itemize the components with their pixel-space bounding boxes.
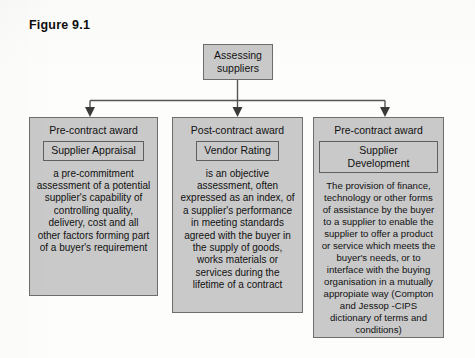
column-supplier-appraisal: Pre-contract award Supplier Appraisal a … [29, 117, 158, 296]
column-1-term-box: Supplier Appraisal [43, 141, 144, 161]
column-3-term-box: Supplier Development [319, 141, 438, 173]
column-2-term-box: Vendor Rating [196, 141, 279, 161]
arrowhead-2 [233, 107, 243, 117]
column-2-stage-label: Post-contract award [191, 124, 284, 137]
column-1-stage-label: Pre-contract award [49, 124, 138, 137]
column-vendor-rating: Post-contract award Vendor Rating is an … [172, 117, 303, 313]
root-node-assessing-suppliers: Assessing suppliers [203, 44, 273, 80]
arrowhead-1 [85, 107, 95, 117]
figure-title: Figure 9.1 [29, 18, 90, 32]
column-supplier-development: Pre-contract award Supplier Development … [313, 117, 444, 338]
root-node-label: Assessing suppliers [204, 49, 272, 75]
figure-diagram: Figure 9.1 Assessing suppliers Pre-contr… [0, 0, 475, 358]
column-2-definition: is an objective assessment, often expres… [178, 168, 297, 292]
column-1-definition: a pre-commitment assessment of a potenti… [35, 168, 152, 255]
column-3-definition: The provision of finance, technology or … [319, 180, 438, 336]
arrowhead-3 [380, 107, 390, 117]
column-3-stage-label: Pre-contract award [334, 124, 423, 137]
